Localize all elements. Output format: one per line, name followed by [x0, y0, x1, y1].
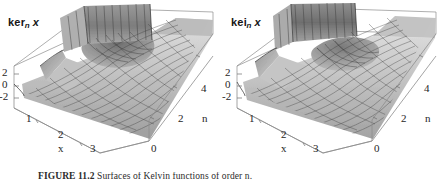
- left-plot-panel: kernx 2 0 -2 1 2 3 x 4 2 0 n: [0, 0, 223, 170]
- ker-label-subscript: n: [25, 21, 30, 30]
- ker-label-variable: x: [33, 16, 39, 28]
- kei-xaxis-label: x: [281, 142, 287, 154]
- kei-ntick-0: 0: [374, 142, 380, 154]
- figure-caption-body: Surfaces of Kelvin functions of order n.: [95, 172, 253, 181]
- kei-label-main: kei: [231, 16, 247, 28]
- ker-xtick-3: 3: [90, 142, 96, 154]
- kei-xtick-1: 1: [249, 112, 255, 124]
- kei-ztick-neg2: -2: [222, 90, 231, 102]
- kei-ntick-4: 4: [424, 82, 430, 94]
- ker-function-label: kernx: [8, 16, 39, 30]
- ker-naxis-label: n: [202, 112, 208, 124]
- kei-label-subscript: n: [246, 21, 251, 30]
- figure-container: kernx 2 0 -2 1 2 3 x 4 2 0 n: [0, 0, 446, 183]
- ker-xaxis-label: x: [58, 142, 64, 154]
- figure-caption: FIGURE 11.2 Surfaces of Kelvin functions…: [38, 172, 252, 181]
- kei-function-label: keinx: [231, 16, 261, 30]
- ker-ztick-neg2: -2: [0, 90, 8, 102]
- ker-xtick-2: 2: [58, 128, 64, 140]
- ker-ntick-2: 2: [178, 112, 184, 124]
- kei-ztick-0: 0: [225, 78, 231, 90]
- ker-ntick-4: 4: [201, 82, 207, 94]
- figure-caption-strip: FIGURE 11.2 Surfaces of Kelvin functions…: [0, 172, 446, 183]
- ker-xtick-1: 1: [26, 112, 32, 124]
- kei-label-variable: x: [255, 16, 261, 28]
- kei-ntick-2: 2: [401, 112, 407, 124]
- ker-label-main: ker: [8, 16, 25, 28]
- ker-ntick-0: 0: [151, 142, 157, 154]
- kei-naxis-label: n: [425, 112, 431, 124]
- kei-xtick-3: 3: [313, 142, 319, 154]
- kei-ztick-2: 2: [225, 66, 231, 78]
- kei-xtick-2: 2: [281, 128, 287, 140]
- ker-ztick-2: 2: [2, 66, 8, 78]
- right-plot-panel: keinx 2 0 -2 1 2 3 x 4 2 0 n: [223, 0, 446, 170]
- ker-ztick-0: 0: [2, 78, 8, 90]
- figure-caption-number: FIGURE 11.2: [38, 172, 95, 181]
